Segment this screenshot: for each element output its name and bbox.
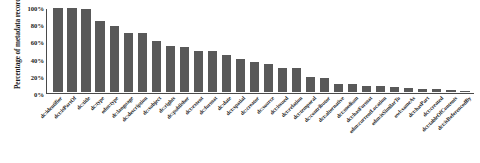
bar-slot: [233, 9, 247, 92]
bar: [110, 26, 119, 92]
y-tick-label: 60%: [18, 39, 44, 46]
y-tick-label: 20%: [18, 73, 44, 80]
bar: [390, 87, 399, 92]
bar-slot: [205, 9, 219, 92]
bar-slot: [360, 9, 374, 92]
bar: [362, 86, 371, 92]
bar-slot: [149, 9, 163, 92]
bar-slot: [121, 9, 135, 92]
bar-slot: [177, 9, 191, 92]
bar-slot: [276, 9, 290, 92]
y-tick-label: 40%: [18, 56, 44, 63]
bar: [306, 77, 315, 92]
bar: [418, 89, 427, 92]
bar: [334, 84, 343, 92]
bar: [222, 55, 231, 92]
bar-slot: [318, 9, 332, 92]
bar-slot: [304, 9, 318, 92]
bar: [180, 47, 189, 92]
bar: [53, 8, 62, 92]
bar: [138, 33, 147, 92]
bar-slot: [346, 9, 360, 92]
bar: [152, 41, 161, 92]
bar-slot: [107, 9, 121, 92]
bar-slot: [163, 9, 177, 92]
x-axis-tick-labels: dc:identifierdct:isPartOfdc:titledc:type…: [46, 95, 474, 163]
bar-slot: [402, 9, 416, 92]
bar: [95, 21, 104, 92]
bar-slot: [191, 9, 205, 92]
bar: [278, 68, 287, 92]
y-axis-tick-labels: 100%80%60%40%20%0%: [18, 8, 44, 94]
bar-slot: [430, 9, 444, 92]
bar: [446, 90, 455, 92]
y-tick-label: 80%: [18, 22, 44, 29]
bar: [404, 88, 413, 92]
bar-slot: [374, 9, 388, 92]
bar-slot: [93, 9, 107, 92]
bar: [194, 51, 203, 92]
bar: [292, 68, 301, 92]
plot-area: [46, 9, 474, 94]
bar: [67, 8, 76, 92]
bar: [264, 64, 273, 92]
bar-slot: [65, 9, 79, 92]
bar: [166, 46, 175, 92]
bar-slot: [458, 9, 472, 92]
bar: [250, 62, 259, 92]
bar: [432, 89, 441, 92]
bar-slot: [290, 9, 304, 92]
bar-slot: [388, 9, 402, 92]
bar-slot: [219, 9, 233, 92]
bar: [460, 91, 469, 92]
bar: [208, 51, 217, 92]
bar-chart: Percentage of metadata records 100%80%60…: [0, 0, 480, 163]
bar-slot: [444, 9, 458, 92]
bar: [348, 84, 357, 92]
bar-slot: [332, 9, 346, 92]
bar-slot: [79, 9, 93, 92]
bar-slot: [416, 9, 430, 92]
bar: [236, 59, 245, 92]
bar: [124, 33, 133, 92]
bar: [320, 78, 329, 92]
bar: [376, 86, 385, 92]
bar-slot: [51, 9, 65, 92]
y-tick-label: 100%: [18, 5, 44, 12]
bars-container: [48, 9, 474, 92]
bar-slot: [247, 9, 261, 92]
bar-slot: [261, 9, 275, 92]
bar: [81, 9, 90, 92]
y-tick-label: 0%: [18, 91, 44, 98]
bar-slot: [135, 9, 149, 92]
